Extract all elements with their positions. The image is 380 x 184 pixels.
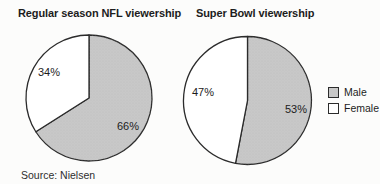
super-bowl-female-percent-label: 47% (192, 86, 214, 98)
right-chart-title: Super Bowl viewership (196, 7, 314, 19)
legend-item-male: Male (328, 86, 379, 98)
legend-label-male: Male (344, 86, 367, 98)
pie-chart-canvas (0, 0, 380, 184)
source-note: Source: Nielsen (21, 169, 95, 181)
pie-super-bowl (183, 36, 311, 164)
legend: Male Female (328, 86, 379, 114)
pie-slice-female-super-bowl (183, 36, 247, 163)
pie-regular-season (26, 35, 152, 161)
regular-season-female-percent-label: 34% (38, 66, 60, 78)
legend-swatch-female (328, 103, 339, 114)
regular-season-male-percent-label: 66% (117, 120, 139, 132)
left-chart-title: Regular season NFL viewership (18, 7, 181, 19)
legend-label-female: Female (344, 102, 379, 114)
nfl-viewership-figure: Regular season NFL viewership Super Bowl… (0, 0, 380, 184)
legend-item-female: Female (328, 102, 379, 114)
super-bowl-male-percent-label: 53% (285, 103, 307, 115)
legend-swatch-male (328, 87, 339, 98)
